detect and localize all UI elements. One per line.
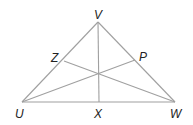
cevian-wz bbox=[64, 61, 175, 102]
label-z: Z bbox=[50, 51, 59, 65]
side-uv bbox=[22, 22, 98, 102]
label-u: U bbox=[15, 107, 24, 121]
label-w: W bbox=[170, 107, 183, 121]
label-x: X bbox=[93, 107, 103, 121]
label-v: V bbox=[94, 8, 103, 22]
side-vw bbox=[98, 22, 175, 102]
label-p: P bbox=[139, 50, 147, 64]
cevians bbox=[22, 22, 175, 102]
triangle-diagram: V U W Z P X bbox=[0, 0, 193, 125]
cevian-vx bbox=[98, 22, 99, 102]
